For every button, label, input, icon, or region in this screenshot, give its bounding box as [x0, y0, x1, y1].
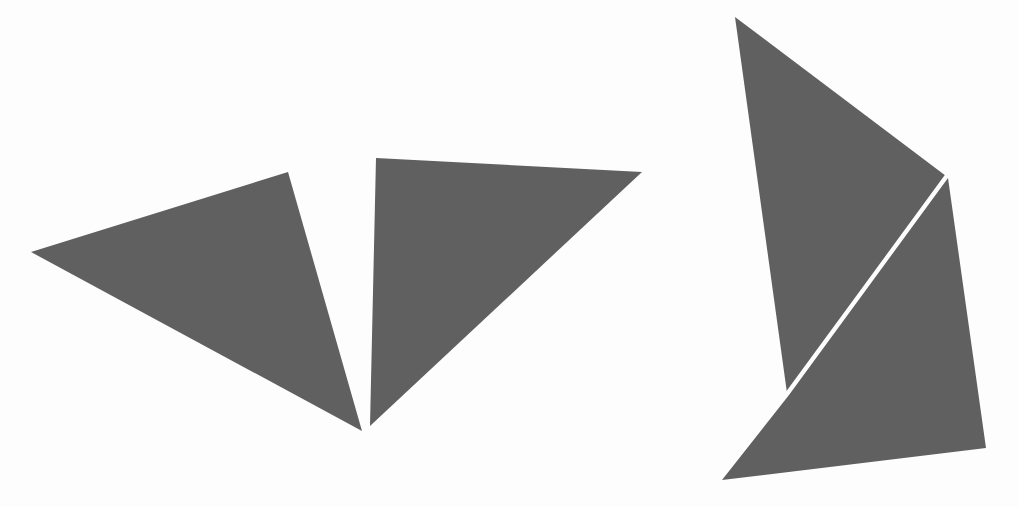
shapes-svg — [0, 0, 1018, 507]
figure-canvas — [0, 0, 1018, 507]
